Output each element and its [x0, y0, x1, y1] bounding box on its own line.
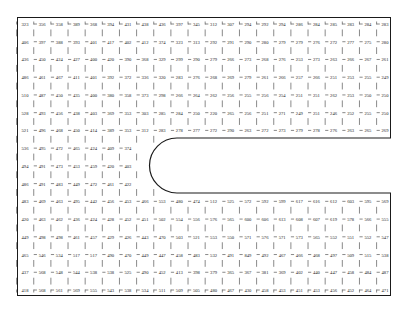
node-value: 312	[142, 128, 149, 133]
node-value: 543	[107, 288, 114, 293]
node-value: 273	[244, 57, 251, 62]
node-value: 406	[22, 39, 29, 44]
node-value: 249	[296, 110, 303, 115]
node-value: 276	[279, 57, 286, 62]
node-value: 358	[56, 22, 63, 27]
node-value: 438	[73, 110, 80, 115]
node-value: 440	[313, 270, 320, 275]
node-value: 290	[227, 128, 234, 133]
node-value: 253	[347, 75, 354, 80]
node-value: 284	[176, 110, 183, 115]
node-value: 534	[56, 252, 63, 257]
node-value: 266	[279, 75, 286, 80]
node-value: 528	[22, 110, 29, 115]
node-value: 329	[159, 57, 166, 62]
node-value: 392	[107, 75, 114, 80]
node-value: 453	[73, 163, 80, 168]
node-value: 470	[124, 252, 131, 257]
node-value: 276	[330, 128, 337, 133]
node-value: 266	[176, 92, 183, 97]
node-value: 276	[193, 75, 200, 80]
node-value: 517	[90, 252, 97, 257]
node-value: 368	[142, 57, 149, 62]
node-value: 487	[39, 92, 46, 97]
node-value: 266	[313, 75, 320, 80]
node-value: 264	[193, 92, 200, 97]
node-value: 420	[107, 163, 114, 168]
node-value: 509	[176, 288, 183, 293]
node-value: 390	[124, 57, 131, 62]
node-value: 272	[330, 39, 337, 44]
node-value: 512	[210, 199, 217, 204]
node-value: 294	[244, 22, 251, 27]
node-value: 491	[39, 181, 46, 186]
node-value: 566	[364, 217, 371, 222]
node-value: 534	[142, 288, 149, 293]
node-value: 323	[22, 22, 29, 27]
node-value: 491	[39, 163, 46, 168]
node-value: 276	[313, 39, 320, 44]
node-value: 356	[39, 22, 46, 27]
node-value: 279	[279, 39, 286, 44]
node-value: 303	[142, 110, 149, 115]
node-value: 268	[262, 57, 269, 62]
node-value: 453	[124, 199, 131, 204]
node-value: 374	[159, 39, 166, 44]
node-value: 538	[124, 288, 131, 293]
node-value: 263	[330, 57, 337, 62]
node-value: 256	[262, 92, 269, 97]
node-value: 498	[56, 234, 63, 239]
node-value: 483	[193, 252, 200, 257]
node-value: 345	[193, 22, 200, 27]
node-value: 493	[39, 110, 46, 115]
node-value: 608	[296, 217, 303, 222]
node-value: 457	[90, 234, 97, 239]
node-value: 426	[124, 234, 131, 239]
node-value: 616	[313, 199, 320, 204]
node-value: 294	[279, 22, 286, 27]
node-value: 430	[244, 288, 251, 293]
node-value: 607	[313, 217, 320, 222]
node-value: 468	[56, 128, 63, 133]
node-value: 453	[279, 288, 286, 293]
node-value: 336	[142, 75, 149, 80]
node-value: 320	[159, 75, 166, 80]
node-value: 573	[296, 234, 303, 239]
node-value: 447	[330, 270, 337, 275]
node-value: 367	[244, 270, 251, 275]
node-value: 412	[142, 39, 149, 44]
node-value: 428	[107, 217, 114, 222]
node-value: 292	[210, 39, 217, 44]
node-value: 466	[296, 252, 303, 257]
node-value: 261	[262, 75, 269, 80]
node-value: 599	[279, 199, 286, 204]
node-value: 467	[56, 75, 63, 80]
node-value: 447	[159, 252, 166, 257]
node-value: 278	[313, 128, 320, 133]
node-value: 220	[210, 110, 217, 115]
node-value: 552	[330, 234, 337, 239]
node-value: 418	[22, 288, 29, 293]
node-value: 451	[296, 288, 303, 293]
node-value: 452	[124, 217, 131, 222]
node-value: 502	[159, 217, 166, 222]
node-value: 253	[347, 92, 354, 97]
node-value: 495	[73, 199, 80, 204]
node-value: 553	[210, 234, 217, 239]
node-value: 251	[262, 110, 269, 115]
node-value: 517	[73, 252, 80, 257]
node-value: 525	[227, 199, 234, 204]
node-value: 449	[73, 181, 80, 186]
node-value: 459	[90, 163, 97, 168]
node-value: 470	[159, 234, 166, 239]
node-value: 279	[244, 75, 251, 80]
node-value: 381	[262, 270, 269, 275]
node-value: 374	[124, 146, 131, 151]
node-value: 515	[364, 252, 371, 257]
node-value: 267	[364, 57, 371, 62]
node-value: 492	[262, 252, 269, 257]
node-value: 397	[176, 22, 183, 27]
figure-canvas: 3233563583893683944314384363973453123072…	[0, 0, 410, 313]
node-value: 427	[73, 57, 80, 62]
node-value: 490	[107, 252, 114, 257]
